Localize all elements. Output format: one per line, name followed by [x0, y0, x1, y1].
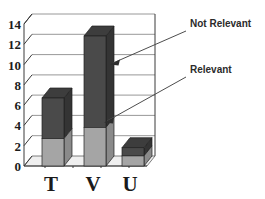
bar-group-V[interactable]: [84, 26, 114, 166]
bar-V-not-relevant[interactable]: [84, 26, 114, 127]
y-tick-label-14: 14: [8, 17, 22, 32]
y-tick-label-4: 4: [15, 118, 22, 133]
not-relevant-label: Not Relevant: [190, 18, 252, 29]
x-tick-label-V: V: [85, 172, 100, 196]
bar-T-not-relevant[interactable]: [42, 88, 72, 139]
x-tick-label-T: T: [44, 172, 58, 196]
bar-chart: 14 12 10 8 6 4 2 0: [0, 0, 265, 199]
y-tick-marks: [24, 14, 32, 166]
relevant-label: Relevant: [190, 64, 232, 75]
y-tick-label-8: 8: [15, 78, 22, 93]
y-tick-label-10: 10: [8, 58, 21, 73]
y-tick-label-6: 6: [15, 98, 22, 113]
y-tick-label-0: 0: [15, 159, 22, 174]
y-tick-label-12: 12: [8, 37, 21, 52]
chart-figure: 14 12 10 8 6 4 2 0: [0, 0, 265, 199]
bar-group-U[interactable]: [122, 138, 152, 166]
x-tick-label-U: U: [122, 172, 137, 196]
y-tick-label-2: 2: [15, 139, 22, 154]
bar-group-T[interactable]: [42, 88, 72, 166]
